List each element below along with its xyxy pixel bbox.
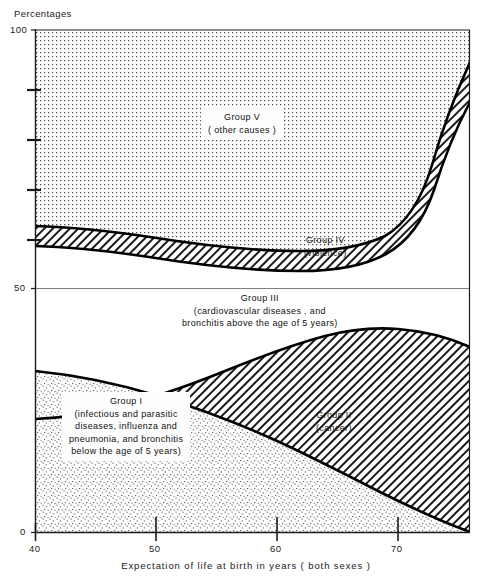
series-label-group-v: Group V ( other causes ) [201, 108, 283, 139]
x-axis-title: Expectation of life at birth in years ( … [0, 560, 492, 571]
x-tick-label-70: 70 [391, 543, 403, 554]
series-label-group-ii: Group II (cancer) [316, 409, 352, 434]
series-label-group-ii-line2: (cancer) [316, 422, 352, 435]
y-tick-label-50: 50 [14, 282, 26, 293]
y-tick-label-100: 100 [10, 24, 27, 35]
series-label-group-ii-line1: Group II [316, 409, 352, 422]
series-label-group-iv-line2: (violence) [304, 247, 347, 260]
series-label-group-i: Group I (infectious and parasitic diseas… [62, 392, 190, 461]
series-label-group-i-line2: (infectious and parasitic [69, 408, 183, 421]
y-axis-title: Percentages [14, 8, 72, 19]
life-expectancy-cause-of-death-chart [0, 0, 492, 581]
series-label-group-v-line1: Group V [208, 111, 276, 124]
series-label-group-iii: Group III (cardiovascular diseases , and… [182, 292, 338, 330]
series-label-group-iv: Group IV (violence) [304, 234, 347, 259]
series-label-group-iii-line2: (cardiovascular diseases , and [182, 305, 338, 318]
series-label-group-iii-line3: bronchitis above the age of 5 years) [182, 317, 338, 330]
series-label-group-v-line2: ( other causes ) [208, 124, 276, 137]
x-tick-label-40: 40 [29, 543, 41, 554]
series-label-group-i-line1: Group I [69, 395, 183, 408]
series-label-group-iii-line1: Group III [182, 292, 338, 305]
x-tick-label-60: 60 [270, 543, 282, 554]
series-label-group-iv-line1: Group IV [304, 234, 347, 247]
series-label-group-i-line5: below the age of 5 years) [69, 445, 183, 458]
series-label-group-i-line3: diseases, influenza and [69, 420, 183, 433]
y-tick-label-0: 0 [20, 526, 26, 537]
x-tick-label-50: 50 [149, 543, 161, 554]
series-label-group-i-line4: pneumonia, and bronchitis [69, 433, 183, 446]
